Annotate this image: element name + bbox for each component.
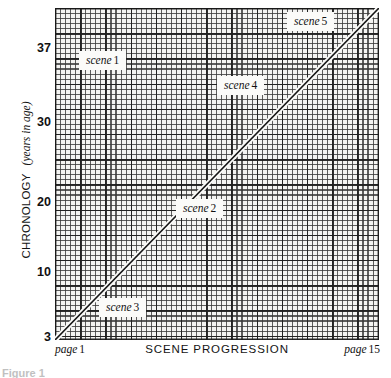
y-tick-10: 10	[27, 266, 51, 279]
x-axis-title: SCENE PROGRESSION	[55, 343, 379, 355]
y-tick-37: 37	[27, 42, 51, 55]
y-axis-tick-labels: 37 30 20 10 3	[23, 0, 51, 378]
y-tick-3: 3	[27, 331, 51, 344]
annotation-scene-3: scene3	[99, 298, 146, 317]
y-tick-30: 30	[27, 116, 51, 129]
annotation-scene-2: scene2	[176, 199, 223, 218]
figure-caption: Figure 1	[2, 367, 45, 378]
annotation-scene-4: scene4	[217, 76, 264, 95]
y-tick-20: 20	[27, 196, 51, 209]
plot-area-grid: scene1 scene5 scene4 scene2 scene3	[55, 8, 379, 340]
x-tick-page-15: page15	[344, 343, 380, 355]
figure-chronology-scene-progression: CHRONOLOGY (years in age) 37 30 20 10 3 …	[0, 0, 391, 378]
x-axis-labels: page1 SCENE PROGRESSION page15	[55, 343, 379, 361]
annotation-scene-1: scene1	[79, 51, 126, 70]
annotation-scene-5: scene5	[287, 12, 334, 31]
